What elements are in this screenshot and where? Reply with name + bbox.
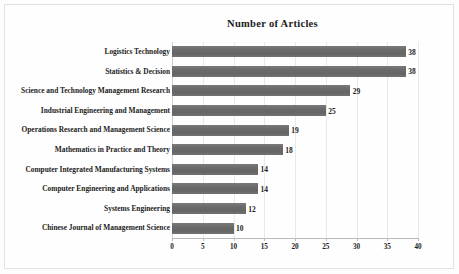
x-tick-mark-15 [264,238,265,241]
x-tick-label-40: 40 [414,243,421,251]
category-label: Computer Integrated Manufacturing System… [6,160,170,180]
bar-value-label: 29 [353,87,361,96]
bar-row[interactable]: 38 [172,62,418,82]
bar-value-label: 25 [328,107,336,116]
gridline-40 [418,42,419,238]
category-label: Chinese Journal of Management Science [6,218,170,238]
x-tick-label-35: 35 [384,243,391,251]
x-axis: 0510152025303540 [172,238,418,260]
bar-value-label: 19 [291,126,299,135]
bar[interactable] [172,164,258,175]
bar-value-label: 18 [285,146,293,155]
bar[interactable] [172,85,350,96]
bar[interactable] [172,183,258,194]
bar-value-label: 10 [236,224,244,233]
x-tick-mark-5 [203,238,204,241]
bar-value-label: 12 [248,205,256,214]
bar-row[interactable]: 29 [172,81,418,101]
bar[interactable] [172,223,234,234]
x-tick-mark-30 [357,238,358,241]
x-tick-mark-40 [418,238,419,241]
x-tick-mark-25 [326,238,327,241]
category-label: Statistics & Decision [6,62,170,82]
category-label: Logistics Technology [6,42,170,62]
bar-row[interactable]: 18 [172,140,418,160]
x-tick-label-25: 25 [322,243,329,251]
bar[interactable] [172,125,289,136]
bar-row[interactable]: 14 [172,179,418,199]
bar[interactable] [172,144,283,155]
x-tick-label-0: 0 [170,243,174,251]
bar[interactable] [172,46,406,57]
chart-figure: Number of Articles Logistics TechnologyS… [0,0,459,274]
bar-value-label: 14 [261,185,269,194]
x-tick-label-20: 20 [291,243,298,251]
x-tick-mark-10 [234,238,235,241]
x-tick-mark-35 [387,238,388,241]
x-tick-mark-20 [295,238,296,241]
category-label-column: Logistics TechnologyStatistics & Decisio… [6,42,170,238]
bar-row[interactable]: 14 [172,160,418,180]
bar-value-label: 38 [408,48,416,57]
x-tick-label-5: 5 [201,243,205,251]
x-tick-mark-0 [172,238,173,241]
bar-row[interactable]: 38 [172,42,418,62]
bar-row[interactable]: 12 [172,199,418,219]
bar[interactable] [172,105,326,116]
bar-row[interactable]: 10 [172,218,418,238]
category-label: Operations Research and Management Scien… [6,120,170,140]
category-label: Mathematics in Practice and Theory [6,140,170,160]
plot-area: 38382925191814141210 [172,42,418,238]
bar[interactable] [172,66,406,77]
category-label: Industrial Engineering and Management [6,101,170,121]
category-label: Computer Engineering and Applications [6,179,170,199]
bar[interactable] [172,203,246,214]
bar-row[interactable]: 25 [172,101,418,121]
bar-row[interactable]: 19 [172,120,418,140]
category-label: Science and Technology Management Resear… [6,81,170,101]
bar-value-label: 38 [408,67,416,76]
x-tick-label-15: 15 [261,243,268,251]
category-label: Systems Engineering [6,199,170,219]
chart-title: Number of Articles [0,18,459,29]
bar-value-label: 14 [261,165,269,174]
x-tick-label-30: 30 [353,243,360,251]
x-tick-label-10: 10 [230,243,237,251]
